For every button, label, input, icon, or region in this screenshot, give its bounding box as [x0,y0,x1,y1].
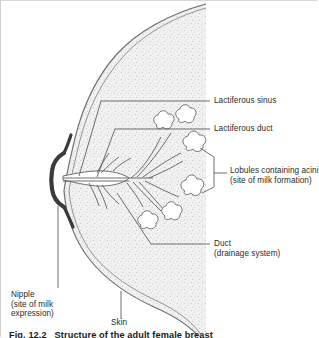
label-lactiferous-sinus: Lactiferous sinus [214,96,276,106]
breast-tissue [63,3,206,335]
label-lobules-acini: Lobules containing acini (site of milk f… [230,166,319,185]
label-lobules-acini-line1: Lobules containing acini [230,166,319,176]
figure-caption: Fig. 12.2 Structure of the adult female … [9,330,314,338]
label-nipple-line3: expression) [11,309,54,319]
label-nipple-line1: Nipple [11,290,54,300]
label-lobules-acini-line2: (site of milk formation) [230,176,319,186]
label-nipple: Nipple (site of milk expression) [11,290,54,319]
label-duct: Duct (drainage system) [214,239,280,258]
label-skin: Skin [111,318,127,328]
label-duct-line1: Duct [214,239,280,249]
label-duct-line2: (drainage system) [214,249,280,259]
label-nipple-line2: (site of milk [11,300,54,310]
label-lactiferous-duct: Lactiferous duct [214,124,273,134]
